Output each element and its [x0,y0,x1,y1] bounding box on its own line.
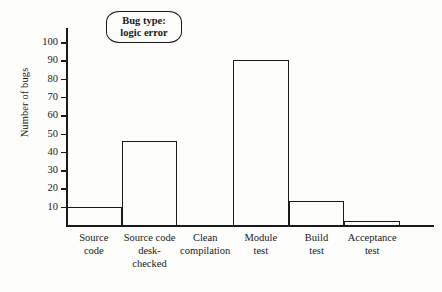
bar-chart-figure: Bug type: logic error Number of bugs 102… [0,0,442,292]
callout-line-2: logic error [120,27,167,39]
y-tick-mark [61,134,67,135]
y-tick-label: 60 [48,110,59,121]
y-tick-mark [61,60,67,61]
bar-slot [122,33,178,225]
y-tick-label: 20 [48,183,59,194]
bar-series [66,33,400,225]
y-tick-mark [61,42,67,43]
y-tick-label: 70 [48,92,59,103]
bar [233,60,289,225]
y-tick-mark [61,170,67,171]
x-axis-label-line: test [345,245,399,258]
x-axis-label-line: Source code [123,232,177,245]
x-axis-label-line: checked [123,258,177,271]
x-axis-label: Acceptancetest [344,232,400,270]
plot-area: 102030405060708090100 [66,33,400,225]
x-axis-label-line: Clean [178,232,232,245]
y-axis-line [66,28,68,225]
x-axis-label-line: Acceptance [345,232,399,245]
x-axis-label-line: Build [290,232,344,245]
y-tick-mark [61,115,67,116]
y-tick-mark [61,79,67,80]
bug-type-callout: Bug type: logic error [106,11,182,43]
x-axis-label: Buildtest [289,232,345,270]
y-axis-title: Number of bugs [19,43,30,163]
y-tick-label: 10 [48,201,59,212]
x-axis-baseline [66,225,434,227]
x-axis-label: Cleancompilation [177,232,233,270]
x-axis-label-line: Module [234,232,288,245]
x-axis-label-line: code [67,245,121,258]
bar-slot [177,33,233,225]
x-axis-label: Moduletest [233,232,289,270]
y-tick-label: 30 [48,165,59,176]
bar-slot [66,33,122,225]
callout-line-1: Bug type: [122,15,165,27]
x-axis-label: Source codedesk-checked [122,232,178,270]
x-axis-label: Sourcecode [66,232,122,270]
y-tick-label: 40 [48,147,59,158]
y-tick-mark [61,152,67,153]
bar-slot [289,33,345,225]
y-tick-label: 50 [48,128,59,139]
bar [122,141,178,225]
bar [66,207,122,225]
y-tick-mark [61,188,67,189]
x-axis-label-line: desk- [123,245,177,258]
x-axis-labels: SourcecodeSource codedesk-checkedCleanco… [66,232,400,270]
x-axis-label-line: test [234,245,288,258]
y-tick-label: 100 [42,37,58,48]
bar-slot [233,33,289,225]
x-axis-label-line: test [290,245,344,258]
bar [289,201,345,225]
y-tick-label: 90 [48,55,59,66]
bar-slot [344,33,400,225]
y-tick-mark [61,207,67,208]
y-tick-mark [61,97,67,98]
x-axis-label-line: Source [67,232,121,245]
y-tick-label: 80 [48,73,59,84]
x-axis-label-line: compilation [178,245,232,258]
